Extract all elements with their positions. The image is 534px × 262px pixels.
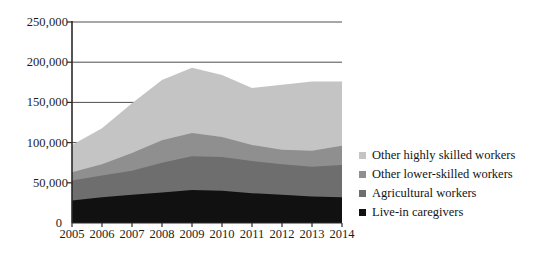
y-tick-200000: 200,000 — [27, 55, 68, 70]
x-tick-2006: 2006 — [90, 227, 115, 242]
legend-label: Other highly skilled workers — [372, 149, 515, 162]
y-tick-250000: 250,000 — [27, 15, 68, 30]
legend-swatch-icon — [359, 152, 366, 159]
legend-item-0[interactable]: Other highly skilled workers — [359, 146, 534, 165]
legend-item-1[interactable]: Other lower-skilled workers — [359, 165, 534, 184]
x-tick-2010: 2010 — [210, 227, 235, 242]
legend-label: Agricultural workers — [372, 187, 476, 200]
x-tick-2005: 2005 — [60, 227, 85, 242]
series-areas — [72, 68, 342, 223]
x-tick-2013: 2013 — [300, 227, 325, 242]
legend-label: Other lower-skilled workers — [372, 168, 513, 181]
legend-swatch-icon — [359, 171, 366, 178]
plot-area — [72, 22, 342, 223]
x-tick-2012: 2012 — [270, 227, 295, 242]
legend-swatch-icon — [359, 209, 366, 216]
y-tick-100000: 100,000 — [27, 135, 68, 150]
x-axis-labels: 2005200620072008200920102011201220132014 — [72, 227, 344, 247]
chart-legend: Other highly skilled workersOther lower-… — [359, 146, 534, 222]
legend-label: Live-in caregivers — [372, 206, 463, 219]
legend-swatch-icon — [359, 190, 366, 197]
stacked-area-chart: 250,000 200,000 150,000 100,000 50,000 0… — [0, 0, 534, 262]
y-tick-150000: 150,000 — [27, 95, 68, 110]
x-tick-2009: 2009 — [180, 227, 205, 242]
x-tick-2011: 2011 — [240, 227, 265, 242]
x-tick-2014: 2014 — [330, 227, 355, 242]
plot-svg — [72, 22, 342, 223]
legend-item-3[interactable]: Live-in caregivers — [359, 203, 534, 222]
x-tick-2007: 2007 — [120, 227, 145, 242]
y-tick-50000: 50,000 — [33, 175, 68, 190]
legend-item-2[interactable]: Agricultural workers — [359, 184, 534, 203]
x-tick-2008: 2008 — [150, 227, 175, 242]
